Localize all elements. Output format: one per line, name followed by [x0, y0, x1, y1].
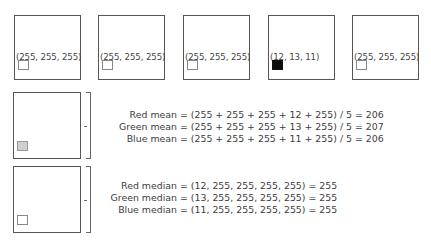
- pixel-swatch: [102, 60, 113, 70]
- mean-result-box: [13, 92, 81, 159]
- green-median-equation: Green median = (13, 255, 255, 255, 255) …: [92, 192, 337, 204]
- equation-expression: = (12, 255, 255, 255, 255) = 255: [180, 180, 337, 192]
- pixel-box-2: (255, 255, 255): [98, 15, 165, 80]
- equation-label: Blue mean: [92, 133, 177, 145]
- blue-median-equation: Blue median = (11, 255, 255, 255, 255) =…: [92, 204, 337, 216]
- equation-label: Blue median: [92, 204, 177, 216]
- equation-expression: = (255 + 255 + 255 + 12 + 255) / 5 = 206: [180, 109, 384, 121]
- equation-expression: = (255 + 255 + 255 + 13 + 255) / 5 = 207: [180, 121, 384, 133]
- equation-label: Red median: [92, 180, 177, 192]
- pixel-box-1: (255, 255, 255): [14, 15, 81, 80]
- median-result-swatch: [17, 215, 28, 225]
- red-median-equation: Red median = (12, 255, 255, 255, 255) = …: [92, 180, 337, 192]
- pixel-swatch: [187, 60, 198, 70]
- equation-expression: = (255 + 255 + 255 + 11 + 255) / 5 = 206: [180, 133, 384, 145]
- blue-mean-equation: Blue mean = (255 + 255 + 255 + 11 + 255)…: [92, 133, 384, 145]
- pixel-box-5: (255, 255, 255): [352, 15, 419, 80]
- equation-label: Green median: [92, 192, 177, 204]
- median-result-box: [13, 166, 81, 233]
- pixel-box-3: (255, 255, 255): [183, 15, 250, 80]
- equation-expression: = (13, 255, 255, 255, 255) = 255: [180, 192, 337, 204]
- median-equations: Red median = (12, 255, 255, 255, 255) = …: [92, 180, 337, 216]
- equation-label: Red mean: [92, 109, 177, 121]
- red-mean-equation: Red mean = (255 + 255 + 255 + 12 + 255) …: [92, 109, 384, 121]
- mean-bracket: [86, 92, 91, 159]
- pixel-swatch: [272, 60, 283, 70]
- pixel-swatch: [356, 60, 367, 70]
- median-bracket: [86, 166, 91, 233]
- mean-result-swatch: [17, 141, 28, 151]
- green-mean-equation: Green mean = (255 + 255 + 255 + 13 + 255…: [92, 121, 384, 133]
- mean-equations: Red mean = (255 + 255 + 255 + 12 + 255) …: [92, 109, 384, 145]
- pixel-swatch: [18, 60, 29, 70]
- pixel-box-4: (12, 13, 11): [268, 15, 335, 80]
- equation-expression: = (11, 255, 255, 255, 255) = 255: [180, 204, 337, 216]
- equation-label: Green mean: [92, 121, 177, 133]
